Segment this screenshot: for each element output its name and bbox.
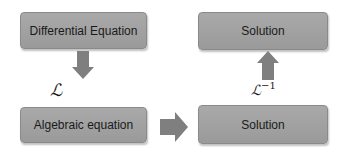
algebraic-equation-label: Algebraic equation xyxy=(34,118,133,132)
solution-bottom-node: Solution xyxy=(198,105,328,144)
solution-bottom-label: Solution xyxy=(241,118,284,132)
inverse-exponent: −1 xyxy=(261,80,276,91)
right-arrow-icon xyxy=(160,112,188,142)
solution-top-node: Solution xyxy=(198,12,328,50)
inverse-laplace-transform-symbol: ℒ−1 xyxy=(251,80,276,98)
up-arrow-icon xyxy=(257,51,279,80)
differential-equation-node: Differential Equation xyxy=(20,12,147,49)
inverse-laplace-symbol: ℒ xyxy=(251,82,261,98)
down-arrow-icon xyxy=(72,51,94,79)
differential-equation-label: Differential Equation xyxy=(30,24,138,38)
algebraic-equation-node: Algebraic equation xyxy=(20,107,147,143)
laplace-symbol: ℒ xyxy=(50,80,62,100)
solution-top-label: Solution xyxy=(241,24,284,38)
laplace-transform-symbol: ℒ xyxy=(50,80,62,100)
